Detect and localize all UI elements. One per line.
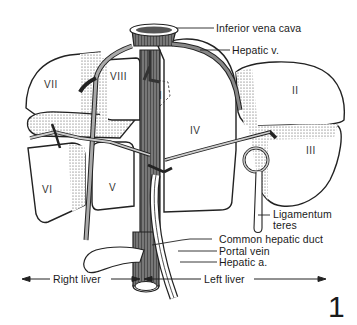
- segment-viii-label: VIII: [110, 72, 127, 82]
- label-common-hepatic-duct: Common hepatic duct: [219, 233, 323, 245]
- segment-v-shape: [92, 142, 134, 210]
- segment-vii-label: VII: [44, 80, 58, 90]
- segment-vi-label: VI: [42, 185, 52, 195]
- ligamentum-teres: [254, 172, 262, 233]
- label-hepatic-artery: Hepatic a.: [219, 256, 267, 268]
- segment-iii-label: III: [306, 146, 316, 156]
- label-left-liver: Left liver: [204, 273, 245, 285]
- segment-ii-label: II: [292, 86, 299, 96]
- label-ligamentum-teres-line2: teres: [273, 219, 297, 231]
- label-right-liver: Right liver: [53, 273, 101, 285]
- label-inferior-vena-cava: Inferior vena cava: [216, 22, 301, 34]
- segment-iv-label: IV: [190, 126, 200, 136]
- segment-v-label: V: [109, 183, 116, 193]
- segment-viii-shape: [104, 58, 140, 120]
- segment-i-label: I: [159, 91, 162, 101]
- label-hepatic-vein: Hepatic v.: [232, 44, 279, 56]
- figure-number: 1: [328, 292, 345, 322]
